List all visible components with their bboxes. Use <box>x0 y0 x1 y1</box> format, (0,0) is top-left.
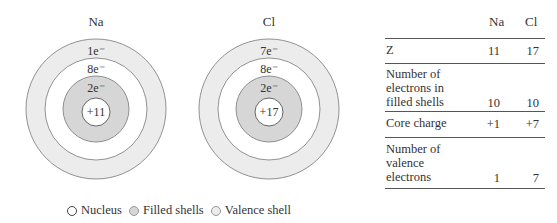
table-rule <box>385 63 545 64</box>
nucleus-charge-cl: +17 <box>260 105 279 119</box>
shell-label-cl-valence: 7e⁻ <box>260 44 277 58</box>
table-rule <box>385 137 545 138</box>
table-rule <box>385 38 545 39</box>
cell-cl: 17 <box>509 44 539 59</box>
shell-label-cl-8: 8e⁻ <box>260 62 277 76</box>
legend-label: Valence shell <box>225 203 291 218</box>
row-label: Core charge <box>386 117 447 131</box>
legend-item-nucleus: Nucleus <box>67 203 122 218</box>
filled-shell-swatch-icon <box>129 206 139 216</box>
shell-label-na-8: 8e⁻ <box>87 62 104 76</box>
cell-cl: 10 <box>509 96 539 111</box>
atom-diagrams: 1e⁻ 8e⁻ 2e⁻ +11 7e⁻ 8e⁻ 2e⁻ +17 <box>0 0 370 200</box>
table-rule <box>385 111 545 112</box>
shell-label-cl-2: 2e⁻ <box>260 81 277 95</box>
legend-item-filled-shells: Filled shells <box>129 203 204 218</box>
nucleus-charge-na: +11 <box>87 105 105 119</box>
column-header-cl: Cl <box>525 14 537 30</box>
nucleus-swatch-icon <box>67 206 77 216</box>
cell-na: 11 <box>470 44 500 59</box>
row-label-line: valence <box>386 157 424 171</box>
row-label-line: Number of <box>386 68 441 82</box>
cell-cl: 7 <box>509 171 539 186</box>
column-header-na: Na <box>489 14 504 30</box>
row-label-line: Number of <box>386 143 441 157</box>
atom-cl: 7e⁻ 8e⁻ 2e⁻ +17 <box>199 39 339 179</box>
legend: Nucleus Filled shells Valence shell <box>67 203 298 218</box>
cell-na: +1 <box>470 117 500 132</box>
cell-cl: +7 <box>509 117 539 132</box>
table-rule <box>385 188 545 189</box>
cell-na: 10 <box>470 96 500 111</box>
legend-label: Filled shells <box>143 203 204 218</box>
shell-label-na-valence: 1e⁻ <box>87 44 104 58</box>
row-label-line: electrons <box>386 171 431 185</box>
valence-shell-swatch-icon <box>211 206 221 216</box>
legend-item-valence-shell: Valence shell <box>211 203 291 218</box>
row-label-line: electrons in <box>386 82 444 96</box>
legend-label: Nucleus <box>81 203 122 218</box>
atom-na: 1e⁻ 8e⁻ 2e⁻ +11 <box>26 39 166 179</box>
cell-na: 1 <box>470 171 500 186</box>
shell-label-na-2: 2e⁻ <box>87 81 104 95</box>
row-label-line: filled shells <box>386 96 444 110</box>
row-label: Z <box>386 44 394 58</box>
